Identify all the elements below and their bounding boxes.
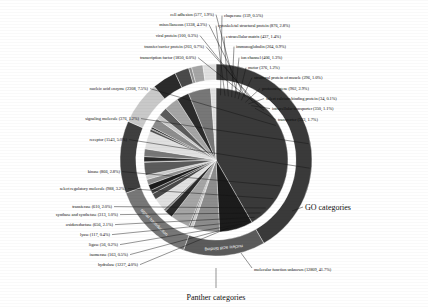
callout-transfer-carrier-protein: transfer/carrier protein (203, 0.7%) (144, 44, 204, 50)
callout-lyase: lyase (117, 0.4%) (80, 232, 111, 238)
callout-ligase: ligase (56, 0.2%) (89, 242, 119, 248)
callout-transferase: transferase (610, 2.0%) (72, 204, 112, 210)
ring-segment-enzyme (120, 121, 143, 193)
callout-oxidoreductase: oxidoreductase (656, 2.1%) (66, 222, 114, 228)
ring-segment-nucleic-acid-binding (183, 229, 263, 256)
callout-nucleic-acid-enzyme: nucleic acid enzyme (2308, 7.5%) (90, 86, 149, 92)
panther-inner-pie (144, 88, 288, 232)
callout-cytoskeletal-structural-protein: cytoskeletal structural protein (876, 2.… (218, 23, 291, 29)
callout-transcription-factor: transcription factor (1850, 6.0%) (140, 55, 197, 61)
callout-chaperone: chaperone (159, 0.5%) (224, 13, 264, 19)
go-categories-label: GO categories (305, 203, 351, 212)
mfu-leader (241, 253, 252, 268)
callout-ion-channel: ion channel (406, 1.3%) (241, 55, 283, 61)
panther-categories-label: Panther categories (187, 293, 246, 302)
callout-extracellular-matrix: extracellular matrix (437, 1.4%) (226, 34, 281, 40)
callout-motor: motor (376, 1.2%) (248, 65, 280, 71)
figure-panel: nucleic acid bindingsignal transduction … (0, 0, 428, 307)
callout-immunoglobulin: immunoglobulin (264, 0.9%) (236, 44, 287, 50)
callout-hydrolase: hydrolase (1227, 4.0%) (98, 262, 139, 268)
callout-miscellaneous: miscellaneous (1338, 4.3%) (159, 22, 207, 28)
molecular-function-unknown-label: molecular function unknown (12809, 41.7%… (254, 267, 332, 273)
callout-viral-protein: viral protein (100, 0.3%) (156, 33, 199, 39)
pie-chart: nucleic acid bindingsignal transduction … (0, 0, 428, 307)
molecular-function-unknown-callout: molecular function unknown (12809, 41.7%… (241, 253, 332, 273)
callout-synthase-and-synthetase: synthase and synthetase (313, 1.0%) (56, 212, 119, 218)
callout-cell-adhesion: cell adhesion (577, 1.9%) (170, 12, 214, 18)
callout-kinase: kinase (866, 2.8%) (88, 169, 121, 175)
callout-isomerase: isomerase (163, 0.5%) (90, 252, 129, 258)
callout-select-regulatory-molecule: select regulatory molecule (988, 3.2%) (60, 186, 127, 192)
panther-categories-caption: Panther categories (187, 268, 246, 302)
